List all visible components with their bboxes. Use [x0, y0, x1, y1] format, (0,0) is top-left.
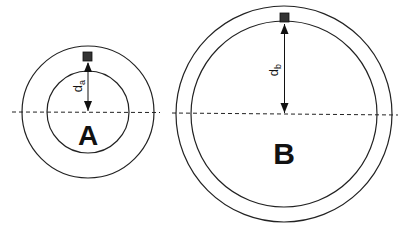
- marker-square-a: [83, 52, 92, 61]
- marker-square-b: [280, 13, 289, 22]
- distance-label-b: db: [266, 64, 283, 76]
- circle-a-label: A: [78, 120, 98, 151]
- diagram-canvas: da A db B: [0, 0, 412, 230]
- svg-text:da: da: [70, 80, 87, 92]
- svg-text:db: db: [266, 64, 283, 76]
- circle-b-label: B: [273, 137, 295, 170]
- distance-label-a: da: [70, 80, 87, 92]
- dashed-baseline: [12, 112, 398, 115]
- distance-arrow-a: [84, 62, 92, 111]
